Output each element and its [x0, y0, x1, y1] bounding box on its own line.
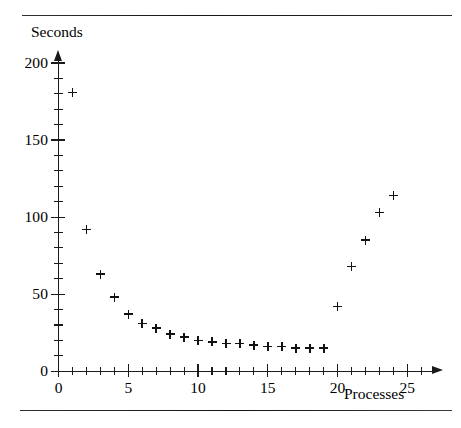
data-point — [347, 262, 356, 271]
x-tick-minor — [100, 367, 101, 376]
y-tick-minor — [54, 309, 63, 310]
x-tick-major — [267, 364, 268, 377]
x-tick-minor — [170, 367, 171, 376]
data-point — [319, 344, 328, 353]
data-point — [249, 341, 258, 350]
y-tick-minor — [54, 201, 63, 202]
x-tick-major — [197, 364, 198, 377]
data-point — [305, 344, 314, 353]
y-tick-minor — [54, 170, 63, 171]
data-point — [194, 336, 203, 345]
y-tick-minor — [54, 109, 63, 110]
y-tick-minor — [54, 263, 63, 264]
data-point — [166, 330, 175, 339]
data-point — [82, 225, 91, 234]
data-point — [110, 293, 119, 302]
y-tick-minor — [54, 93, 63, 94]
data-point — [208, 337, 217, 346]
y-axis-arrowhead — [54, 50, 62, 61]
data-point — [277, 342, 286, 351]
x-tick-minor — [379, 367, 380, 376]
data-point — [222, 339, 231, 348]
data-point — [361, 236, 370, 245]
x-axis-arrowhead — [432, 366, 443, 374]
x-tick-minor — [239, 367, 240, 376]
y-tick-label: 0 — [8, 363, 48, 379]
x-tick-minor — [72, 367, 73, 376]
y-tick-minor — [54, 247, 63, 248]
figure-container: Seconds Processes 050100150200 051015202… — [0, 0, 461, 428]
y-tick-minor — [54, 155, 63, 156]
data-point — [291, 344, 300, 353]
x-tick-label: 15 — [248, 380, 288, 396]
y-tick-major — [51, 62, 65, 63]
y-axis-title: Seconds — [31, 24, 83, 40]
y-tick-minor — [54, 355, 63, 356]
data-point — [138, 319, 147, 328]
x-tick-minor — [323, 367, 324, 376]
x-tick-major — [128, 364, 129, 377]
data-point — [96, 270, 105, 279]
x-tick-minor — [281, 367, 282, 376]
x-tick-minor — [86, 367, 87, 376]
x-tick-label: 0 — [39, 380, 79, 396]
y-tick-major — [51, 139, 65, 140]
data-point — [124, 310, 133, 319]
y-tick-minor — [54, 78, 63, 79]
data-point — [263, 342, 272, 351]
y-tick-label: 150 — [8, 132, 48, 148]
y-tick-minor — [54, 278, 63, 279]
x-tick-label: 25 — [387, 380, 427, 396]
x-tick-major — [407, 364, 408, 377]
figure-rule-bottom — [20, 410, 452, 411]
x-tick-label: 20 — [318, 380, 358, 396]
data-point — [235, 339, 244, 348]
x-tick-minor — [393, 367, 394, 376]
data-point — [389, 191, 398, 200]
x-tick-minor — [365, 367, 366, 376]
x-tick-minor — [211, 367, 212, 376]
y-tick-label: 50 — [8, 286, 48, 302]
data-point — [375, 208, 384, 217]
y-tick-major — [51, 294, 65, 295]
x-tick-minor — [421, 367, 422, 376]
x-tick-minor — [142, 367, 143, 376]
data-point — [180, 333, 189, 342]
x-tick-minor — [351, 367, 352, 376]
x-tick-minor — [295, 367, 296, 376]
x-tick-minor — [114, 367, 115, 376]
y-tick-minor — [54, 340, 63, 341]
x-tick-minor — [253, 367, 254, 376]
y-tick-major — [51, 217, 65, 218]
y-tick-minor — [54, 232, 63, 233]
x-tick-major — [58, 364, 59, 377]
x-tick-minor — [309, 367, 310, 376]
data-point — [152, 324, 161, 333]
y-tick-minor — [54, 186, 63, 187]
y-tick-label: 200 — [8, 55, 48, 71]
scatter-plot: Seconds Processes 050100150200 051015202… — [0, 0, 461, 428]
y-tick-label: 100 — [8, 209, 48, 225]
x-tick-minor — [156, 367, 157, 376]
x-tick-major — [337, 364, 338, 377]
x-tick-minor — [225, 367, 226, 376]
x-tick-label: 10 — [178, 380, 218, 396]
y-tick-minor — [54, 124, 63, 125]
data-point — [68, 88, 77, 97]
x-tick-minor — [184, 367, 185, 376]
data-point — [333, 302, 342, 311]
x-tick-label: 5 — [108, 380, 148, 396]
y-tick-minor — [54, 324, 63, 325]
